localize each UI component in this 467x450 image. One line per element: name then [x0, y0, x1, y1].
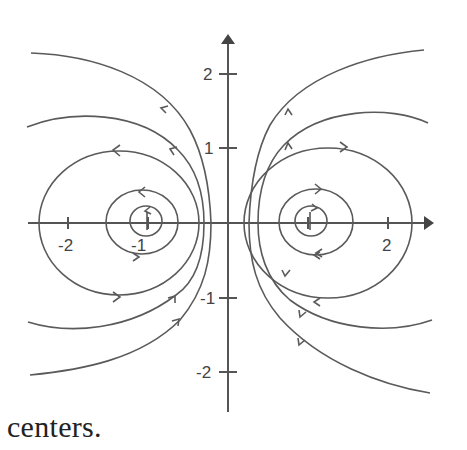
y-tick-label: 1 [204, 139, 213, 158]
direction-arrow-icon [113, 292, 120, 302]
orbits-left [27, 53, 211, 375]
phase-portrait-figure: -2 -1 2 2 1 -1 -2 [0, 0, 467, 450]
direction-arrow-icon [311, 204, 317, 211]
direction-arrow-icon [285, 109, 292, 115]
axes [28, 34, 434, 412]
direction-arrow-icon [145, 207, 151, 214]
direction-arrow-icon [299, 310, 306, 317]
open-orbit [30, 53, 211, 375]
open-orbit [249, 50, 430, 393]
x-tick-label: -1 [131, 236, 146, 255]
direction-arrow-icon [282, 270, 290, 276]
x-tick-label: -2 [58, 236, 73, 255]
direction-arrow-icon [314, 298, 320, 306]
direction-arrow-icon [340, 142, 347, 152]
x-tick-label: 2 [382, 236, 391, 255]
direction-arrow-icon [161, 106, 168, 113]
caption-text: centers. [7, 410, 102, 444]
y-tick-label: -1 [200, 289, 215, 308]
y-tick-label: 2 [203, 65, 212, 84]
orbits-right [244, 50, 432, 393]
y-tick-label: -2 [196, 363, 211, 382]
y-axis-arrowhead-icon [221, 34, 235, 44]
direction-arrow-icon [139, 187, 145, 197]
x-axis-arrowhead-icon [424, 216, 434, 230]
